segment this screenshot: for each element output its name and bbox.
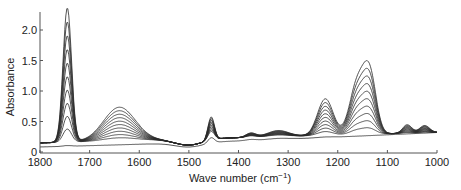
x-axis-title: Wave number (cm−1) [189, 171, 291, 184]
absorbance-spectra-chart: 180017001600150014001300120011001000 00.… [0, 0, 461, 190]
x-tick-label: 1400 [226, 156, 250, 168]
x-tick-label: 1200 [326, 156, 350, 168]
x-tick-label: 1000 [425, 156, 449, 168]
x-axis-title-close: ) [287, 172, 291, 184]
spectrum-curve [40, 23, 437, 146]
spectra-curves [40, 9, 437, 147]
x-tick-label: 1700 [77, 156, 101, 168]
x-tick-label: 1100 [376, 156, 400, 168]
x-tick-label: 1300 [276, 156, 300, 168]
y-tick-label: 1.5 [22, 55, 37, 67]
y-axis-title: Absorbance [4, 58, 16, 117]
spectrum-curve [40, 9, 437, 145]
y-tick-label: 1.0 [22, 85, 37, 97]
axes: 180017001600150014001300120011001000 00.… [22, 12, 450, 168]
y-tick-label: 2.0 [22, 24, 37, 36]
y-tick-label: 0.5 [22, 116, 37, 128]
spectrum-curve [40, 50, 437, 145]
x-tick-label: 1500 [177, 156, 201, 168]
x-axis-title-base: Wave number (cm [189, 172, 278, 184]
y-tick-label: 0 [31, 146, 37, 158]
x-tick-label: 1600 [127, 156, 151, 168]
